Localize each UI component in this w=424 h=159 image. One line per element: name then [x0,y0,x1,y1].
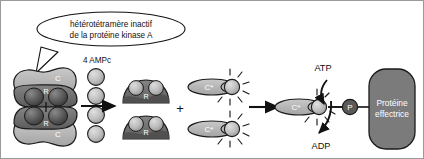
ampc-4 [88,126,105,143]
effector-protein-label-1: Protéine [376,98,408,108]
pka-holoenzyme: C C R R [14,68,77,146]
catalytic-subunit-top-label: C [55,74,61,83]
adp-label: ADP [312,141,331,151]
ampc-1 [88,69,105,86]
pka-activation-diagram: hétérotétramère inactif de la protéine k… [1,1,424,159]
callout-ellipse [37,12,185,46]
regulatory-subunit-bottom-label: R [43,119,48,128]
ampc-count-label: 4 AMPc [83,56,111,65]
active-catalytic-subunit-bottom: C* [188,111,249,147]
r-binding-pocket-2 [49,88,68,106]
r-subunit-bottom-label: R [143,128,148,137]
phosphate-label: P [347,103,352,112]
ampc-3 [88,107,105,124]
regulatory-subunit-top-label: R [43,87,48,96]
phosphate-group: P [342,99,357,114]
r-subunit-top-label: R [143,92,148,101]
callout-line-1: hétérotétramère inactif [70,20,153,29]
catalytic-subunit-bottom-label: C [55,130,61,139]
effector-protein: Protéine effectrice [369,69,415,149]
r-subunit-with-ampc-bottom: R [123,116,169,139]
c-star-active-site-bottom [224,121,239,136]
active-catalytic-subunit-top: C* [188,69,249,105]
ampc-2 [88,88,105,105]
c-star-active-site-top [224,79,239,94]
r-binding-pocket-4 [49,107,68,125]
active-catalytic-subunit-effector: C* [275,89,335,125]
c-star-label-top: C* [205,83,214,92]
bound-ampc-top-2 [149,81,164,96]
bound-ampc-bottom-2 [149,117,164,132]
figure-canvas: hétérotétramère inactif de la protéine k… [0,0,424,159]
callout-line-2: de la protéine kinase A [70,31,153,40]
plus-sign: + [176,101,184,116]
effector-protein-label-2: effectrice [375,109,409,119]
c-star-label-effector: C* [292,103,301,112]
r-subunit-with-ampc-top: R [123,80,169,103]
c-star-label-bottom: C* [205,125,214,134]
bound-ampc-top-1 [129,81,144,96]
bound-ampc-bottom-1 [129,117,144,132]
atp-input-arrow [321,80,327,104]
c-star-active-site-effector [311,99,326,114]
atp-label: ATP [314,63,331,73]
r-binding-pocket-3 [25,107,44,125]
r-binding-pocket-1 [25,88,44,106]
